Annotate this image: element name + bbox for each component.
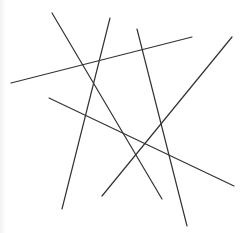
line-drawing-canvas [0,0,249,233]
line-c [11,37,192,83]
line-f [102,37,232,196]
line-e [137,29,187,226]
line-a [52,13,162,199]
line-d [49,98,234,186]
line-b [62,18,110,209]
